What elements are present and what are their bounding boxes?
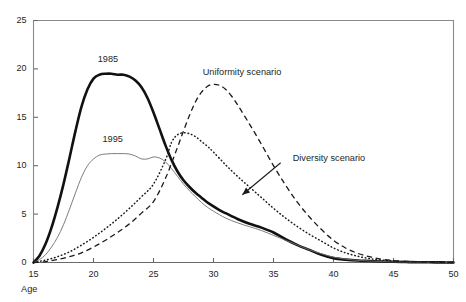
x-tick-label: 50 [442, 270, 466, 279]
y-tick-label: 5 [5, 210, 27, 219]
y-tick-label: 10 [5, 161, 27, 170]
chart-figure: 0510152025152025303540455019851995Unifor… [0, 0, 466, 302]
data-series [34, 74, 454, 263]
x-tick-label: 30 [202, 270, 226, 279]
y-tick-label: 15 [5, 113, 27, 122]
y-tick-label: 0 [5, 258, 27, 267]
series-line [34, 133, 454, 263]
x-tick-label: 15 [22, 270, 46, 279]
x-tick-label: 40 [322, 270, 346, 279]
annotation-uniformity: Uniformity scenario [203, 68, 282, 77]
x-tick-label: 20 [82, 270, 106, 279]
annotation-diversity: Diversity scenario [293, 154, 366, 163]
x-tick-label: 35 [262, 270, 286, 279]
y-tick-label: 20 [5, 64, 27, 73]
plot-frame [34, 21, 454, 263]
series-line [34, 154, 454, 263]
x-axis-title: Age [21, 285, 37, 294]
annotation-1995: 1995 [102, 135, 122, 144]
x-tick-label: 45 [382, 270, 406, 279]
y-tick-label: 25 [5, 16, 27, 25]
annotation-1985: 1985 [98, 55, 118, 64]
diversity-arrow [242, 163, 280, 195]
axis-ticks [34, 21, 454, 263]
chart-canvas [0, 0, 466, 302]
x-tick-label: 25 [142, 270, 166, 279]
series-line [34, 74, 454, 263]
